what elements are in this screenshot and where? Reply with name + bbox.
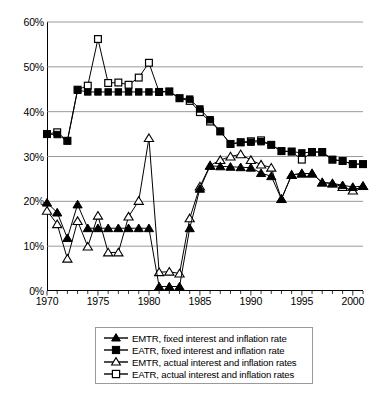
open-triangle-marker [246,156,255,164]
filled-square-marker [278,148,284,154]
filled-square-marker [258,139,264,145]
filled-square-marker [309,149,315,155]
open-triangle-marker [42,207,51,215]
open-square-marker [95,36,102,43]
filled-square-marker [227,141,233,147]
filled-square-marker [268,142,274,148]
open-square-marker [298,156,305,163]
legend-item: EATR, actual interest and inflation rate… [103,368,312,380]
open-triangle-marker [267,164,276,172]
filled-square-marker [350,161,356,167]
series-3 [44,36,367,168]
x-tick-label: 2000 [330,295,376,307]
filled-triangle-marker [267,172,276,180]
open-square-marker [146,59,153,66]
filled-square-marker [339,158,345,164]
legend-item: EMTR, fixed interest and inflation rate [103,332,312,344]
open-triangle-marker [124,212,133,220]
filled-square-marker [105,89,111,95]
open-triangle-marker [236,150,245,158]
filled-square-marker [360,161,366,167]
open-triangle-marker [256,160,265,168]
x-tick-label: 1995 [279,295,325,307]
filled-square-marker [288,148,294,154]
open-square-marker [84,82,91,89]
filled-square-marker [166,88,172,94]
filled-square-marker [197,106,203,112]
open-triangle-marker [63,255,72,263]
open-triangle-marker [73,217,82,225]
data-series-layer [42,36,367,290]
open-square-marker [125,81,132,88]
series-0 [42,162,367,290]
open-triangle-marker [134,197,143,205]
x-tick-label: 1990 [228,295,274,307]
filled-triangle-icon [103,332,129,344]
open-square-marker [135,74,142,81]
open-triangle-marker [165,268,174,276]
open-triangle-marker [93,211,102,219]
open-triangle-icon [103,356,129,368]
x-axis: 1970197519801985199019952000 [0,295,381,311]
filled-square-marker [54,131,60,137]
filled-square-marker [115,89,121,95]
filled-square-marker [217,128,223,134]
x-tick-label: 1970 [24,295,70,307]
open-square-marker [105,80,112,87]
filled-square-marker [187,96,193,102]
filled-triangle-marker [63,234,72,242]
filled-square-marker [44,131,50,137]
series-line [47,39,363,164]
legend-label: EATR, actual interest and inflation rate… [132,369,294,380]
x-tick-label: 1975 [75,295,121,307]
legend-label: EATR, fixed interest and inflation rate [132,345,284,356]
filled-square-marker [74,87,80,93]
filled-square-marker [125,89,131,95]
filled-triangle-marker [358,182,367,190]
series-line [47,138,363,273]
filled-square-marker [85,89,91,95]
open-square-marker [115,79,122,86]
filled-square-marker [95,89,101,95]
filled-square-marker [207,117,213,123]
filled-square-marker [176,95,182,101]
filled-square-icon [103,344,129,356]
filled-square-marker [146,89,152,95]
chart-legend: EMTR, fixed interest and inflation rate … [95,327,313,384]
filled-square-marker [248,139,254,145]
filled-square-marker [64,138,70,144]
legend-label: EMTR, fixed interest and inflation rate [132,333,287,344]
filled-square-marker [329,156,335,162]
filled-triangle-marker [277,195,286,203]
x-tick-label: 1985 [177,295,223,307]
open-triangle-marker [144,134,153,142]
x-tick-label: 1980 [126,295,172,307]
legend-item: EATR, fixed interest and inflation rate [103,344,312,356]
chart-container: 0%10%20%30%40%50%60% 1970197519801985199… [0,0,381,395]
open-square-icon [103,368,129,380]
legend-item: EMTR, actual interest and inflation rate… [103,356,312,368]
filled-square-marker [319,149,325,155]
series-1 [44,87,366,167]
filled-square-marker [156,89,162,95]
filled-triangle-marker [205,162,214,170]
legend-label: EMTR, actual interest and inflation rate… [132,357,297,368]
filled-triangle-marker [256,169,265,177]
filled-triangle-marker [42,198,51,206]
filled-triangle-marker [185,224,194,232]
filled-square-marker [299,150,305,156]
filled-square-marker [136,89,142,95]
filled-square-marker [237,139,243,145]
